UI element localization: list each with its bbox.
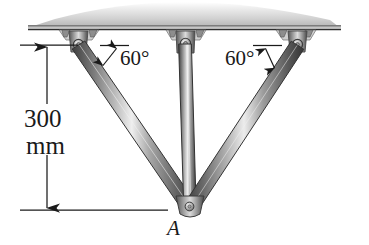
- right-angle-arc-arrow: [266, 49, 275, 69]
- statics-diagram-figure: 300 mm 60° 60° A: [0, 0, 369, 245]
- angle-label-right: 60°: [225, 48, 254, 69]
- ceiling-shading-region: [30, 2, 339, 27]
- ceiling-assembly: [28, 2, 341, 30]
- dimension-value-300: 300: [24, 106, 62, 131]
- angle-label-left: 60°: [120, 48, 149, 69]
- truss-members: [72, 41, 304, 212]
- left-bracket-tab-b: [89, 30, 97, 37]
- point-label-a: A: [167, 218, 180, 239]
- joint-a-pin-hole: [188, 205, 191, 208]
- left-angle-arc-arrow: [103, 49, 117, 66]
- dimension-unit-mm: mm: [26, 133, 65, 158]
- joint-a-connection: [176, 196, 204, 217]
